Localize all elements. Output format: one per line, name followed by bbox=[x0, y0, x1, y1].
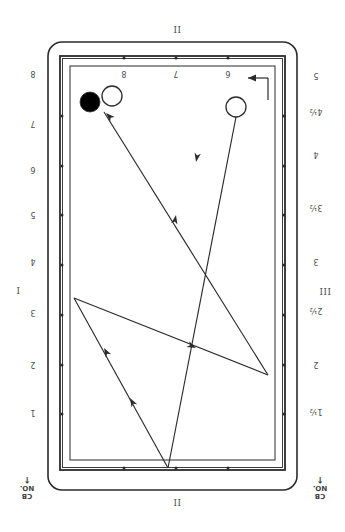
cb-no-label-right: CBNO.↑ bbox=[306, 475, 334, 500]
table-mid-rail bbox=[60, 56, 285, 470]
left-rail-number-6: 3 bbox=[24, 308, 42, 316]
object-ball-light bbox=[102, 86, 122, 106]
right-rail-number-1: 5 bbox=[305, 71, 327, 79]
section-label-bottom: II bbox=[168, 497, 186, 506]
path-segment-3 bbox=[74, 298, 268, 375]
diamond-marker-bottom-1 bbox=[175, 467, 178, 470]
path-arrowhead-1 bbox=[193, 153, 201, 163]
diamond-marker-left-3 bbox=[61, 264, 64, 267]
section-label-left: I bbox=[9, 285, 27, 294]
diamond-marker-top-2 bbox=[227, 57, 230, 60]
right-rail-number-4: 3¹⁄₂ bbox=[305, 203, 327, 211]
top-rail-number-2: 7 bbox=[167, 69, 185, 77]
billiard-diagram-canvas: 8768765432154¹⁄₂43¹⁄₂32¹⁄₂21¹⁄₂IIIIIIIIC… bbox=[0, 0, 345, 532]
diamond-marker-left-6 bbox=[61, 413, 64, 416]
right-rail-number-7: 2 bbox=[305, 360, 327, 368]
left-rail-number-8: 1 bbox=[24, 408, 42, 416]
diamond-markers bbox=[61, 57, 286, 470]
ball-path-lines bbox=[74, 111, 268, 468]
cb-no-label-left-text: CBNO.↑ bbox=[13, 475, 41, 500]
arrowhead-glyph bbox=[193, 153, 201, 163]
path-arrowhead-2 bbox=[171, 214, 179, 224]
diamond-marker-top-0 bbox=[123, 57, 126, 60]
right-rail-number-8: 1¹⁄₂ bbox=[305, 407, 327, 415]
diamond-marker-left-4 bbox=[61, 314, 64, 317]
cb-no-label-left: CBNO.↑ bbox=[13, 475, 41, 500]
right-rail-number-3: 4 bbox=[305, 150, 327, 158]
diamond-marker-right-3 bbox=[283, 264, 286, 267]
entry-direction-arrow bbox=[248, 78, 268, 100]
diamond-marker-right-0 bbox=[283, 115, 286, 118]
diamond-marker-right-5 bbox=[283, 364, 286, 367]
diamond-marker-right-2 bbox=[283, 214, 286, 217]
diamond-marker-left-5 bbox=[61, 364, 64, 367]
path-segment-4 bbox=[104, 112, 268, 375]
top-rail-number-3: 6 bbox=[219, 69, 237, 77]
table-playing-surface bbox=[70, 66, 275, 460]
diamond-marker-right-1 bbox=[283, 165, 286, 168]
diamond-marker-right-6 bbox=[283, 413, 286, 416]
table-graphics bbox=[0, 0, 345, 532]
left-rail-number-3: 6 bbox=[24, 165, 42, 173]
arrowhead-glyph bbox=[171, 214, 179, 224]
diamond-marker-left-2 bbox=[61, 214, 64, 217]
diamond-marker-bottom-0 bbox=[123, 467, 126, 470]
diamond-marker-bottom-2 bbox=[227, 467, 230, 470]
right-rail-number-5: 3 bbox=[305, 257, 327, 265]
diamond-marker-left-1 bbox=[61, 165, 64, 168]
left-rail-number-5: 4 bbox=[24, 257, 42, 265]
right-rail-number-6: 2¹⁄₂ bbox=[305, 306, 327, 314]
path-segment-2 bbox=[74, 298, 168, 468]
section-label-top: II bbox=[168, 24, 186, 33]
object-ball-dark bbox=[80, 92, 100, 112]
diamond-marker-top-1 bbox=[175, 57, 178, 60]
section-label-right: III bbox=[316, 286, 334, 295]
left-rail-number-1: 8 bbox=[24, 69, 42, 77]
diamond-marker-right-4 bbox=[283, 314, 286, 317]
balls-group bbox=[80, 86, 246, 117]
cue-ball bbox=[226, 97, 246, 117]
right-rail-number-2: 4¹⁄₂ bbox=[305, 107, 327, 115]
path-arrowhead-4 bbox=[101, 346, 111, 357]
arrowhead-glyph bbox=[101, 346, 111, 357]
left-rail-number-2: 7 bbox=[24, 119, 42, 127]
diamond-marker-left-0 bbox=[61, 115, 64, 118]
path-segment-1 bbox=[168, 117, 236, 468]
top-rail-number-1: 8 bbox=[115, 69, 133, 77]
left-rail-number-4: 5 bbox=[24, 210, 42, 218]
left-rail-number-7: 2 bbox=[24, 360, 42, 368]
cb-no-label-right-text: CBNO.↑ bbox=[306, 475, 334, 500]
table-mid-rail-inner-edge bbox=[63, 59, 283, 468]
